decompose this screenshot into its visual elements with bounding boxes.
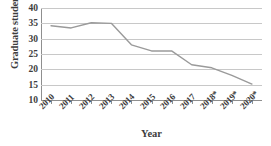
y-axis-tick-labels: 40353025201510 xyxy=(18,8,38,100)
y-tick-label-20: 20 xyxy=(18,65,38,73)
y-tick-label-30: 30 xyxy=(18,35,38,43)
y-tick-label-25: 25 xyxy=(18,50,38,58)
plot-area xyxy=(41,8,262,100)
x-axis-tick-labels: 201020112012201320142015201620172018*201… xyxy=(41,104,262,130)
y-tick-label-40: 40 xyxy=(18,4,38,12)
line-chart: Graduate students 40353025201510 2010201… xyxy=(0,0,271,146)
y-tick-label-15: 15 xyxy=(18,81,38,89)
y-tick-label-10: 10 xyxy=(18,96,38,104)
data-series-line xyxy=(41,8,262,100)
series-polyline xyxy=(51,23,252,84)
x-axis-title: Year xyxy=(41,128,262,139)
y-tick-label-35: 35 xyxy=(18,19,38,27)
